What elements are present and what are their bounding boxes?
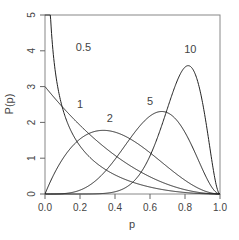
curve-a-10 (45, 66, 220, 194)
y-tick-label: 5 (26, 12, 37, 18)
x-tick-label: 0.2 (73, 202, 87, 213)
curve-label-2: 2 (107, 112, 113, 124)
y-tick-label: 1 (26, 155, 37, 161)
curve-label-1: 1 (77, 98, 83, 110)
y-tick-label: 0 (26, 191, 37, 197)
curve-a-2 (45, 130, 220, 194)
curve-label-10: 10 (184, 43, 196, 55)
curve-label-0.5: 0.5 (76, 41, 91, 53)
y-axis: 012345 (26, 12, 45, 197)
x-tick-label: 0.0 (38, 202, 52, 213)
beta-density-chart: 0.512510 0.00.20.40.60.81.0 012345 p P(p… (0, 0, 239, 240)
y-axis-label: P(p) (3, 94, 15, 115)
x-axis-label: p (129, 218, 135, 230)
y-tick-label: 4 (26, 48, 37, 54)
x-tick-label: 0.6 (143, 202, 157, 213)
x-tick-label: 0.8 (178, 202, 192, 213)
x-tick-label: 0.4 (108, 202, 122, 213)
curve-label-5: 5 (147, 95, 153, 107)
curve-labels: 0.512510 (76, 41, 197, 125)
x-tick-label: 1.0 (213, 202, 227, 213)
y-tick-label: 2 (26, 119, 37, 125)
y-tick-label: 3 (26, 83, 37, 89)
x-axis: 0.00.20.40.60.81.0 (38, 194, 227, 213)
